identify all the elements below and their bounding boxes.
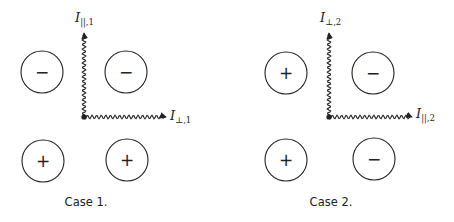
charge-sign: + xyxy=(279,63,293,83)
charge-top-right: − xyxy=(352,52,394,94)
origin-dot xyxy=(81,114,86,119)
charge-bottom-right: + xyxy=(106,139,148,181)
caption-case-1: Case 1. xyxy=(65,195,108,209)
charge-sign: − xyxy=(35,62,49,82)
charge-bottom-left: + xyxy=(265,139,307,181)
charge-top-right: − xyxy=(105,51,147,93)
vertical-axis-label: I||,1 xyxy=(74,10,94,28)
charge-bottom-left: + xyxy=(22,140,64,182)
vertical-wavy-axis xyxy=(82,33,86,117)
charge-sign: − xyxy=(367,149,381,169)
panel-case-2: I⊥,2 I||,2 + − + − Case 2. xyxy=(265,10,435,209)
charge-sign: − xyxy=(366,63,380,83)
charge-top-left: + xyxy=(265,52,307,94)
horizontal-wavy-axis xyxy=(329,115,412,119)
diagram-canvas: I||,1 I⊥,1 − − + + Case 1. I⊥,2 xyxy=(0,0,454,222)
horizontal-axis-label: I⊥,1 xyxy=(169,108,191,125)
charge-sign: − xyxy=(119,62,133,82)
charge-sign: + xyxy=(36,151,50,171)
panel-case-1: I||,1 I⊥,1 − − + + Case 1. xyxy=(21,10,191,209)
horizontal-wavy-axis xyxy=(84,115,166,119)
charge-top-left: − xyxy=(21,51,63,93)
origin-dot xyxy=(326,114,331,119)
charge-bottom-right: − xyxy=(353,138,395,180)
charge-sign: + xyxy=(120,150,134,170)
horizontal-axis-label: I||,2 xyxy=(415,106,435,124)
vertical-axis-label: I⊥,2 xyxy=(319,10,341,27)
vertical-wavy-axis xyxy=(327,33,331,117)
caption-case-2: Case 2. xyxy=(310,195,353,209)
charge-sign: + xyxy=(279,150,293,170)
